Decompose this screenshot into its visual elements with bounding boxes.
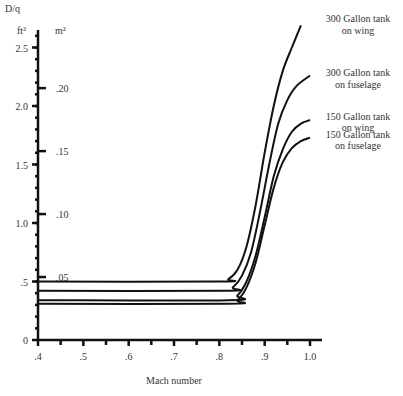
y-tick-label-m2: .20 <box>56 83 69 94</box>
series-label: on fuselage <box>335 79 381 90</box>
x-axis-ticks: .4.5.6.7.8.91.0 <box>34 340 316 362</box>
x-tick-label: 1.0 <box>304 351 317 362</box>
y-tick-label-m2: .15 <box>56 146 69 157</box>
series-label: 300 Gallon tank <box>326 13 390 24</box>
y-tick-label-ft2: 1.5 <box>16 160 29 171</box>
y-unit-m2: m² <box>55 25 66 36</box>
axis-lines <box>38 30 322 340</box>
y-tick-label-ft2: .5 <box>21 277 29 288</box>
series-label: 150 Gallon tank <box>326 111 390 122</box>
series-label: 150 Gallon tank <box>326 129 390 140</box>
x-tick-label: .6 <box>125 351 133 362</box>
series-labels: 300 Gallon tankon wing300 Gallon tankon … <box>326 13 390 151</box>
y-tick-label-m2: .10 <box>56 209 69 220</box>
axes <box>38 30 322 340</box>
series-curve <box>38 76 310 292</box>
series-label: 300 Gallon tank <box>326 67 390 78</box>
x-tick-label: .4 <box>34 351 42 362</box>
x-tick-label: .8 <box>216 351 224 362</box>
y-tick-label-ft2: 2.5 <box>16 43 29 54</box>
x-axis-label: Mach number <box>146 375 202 386</box>
series-curves <box>38 25 310 304</box>
x-tick-label: .7 <box>170 351 178 362</box>
series-label: on wing <box>342 25 375 36</box>
x-tick-label: .9 <box>261 351 269 362</box>
y-axis-label: D/q <box>5 3 20 14</box>
chart: D/q ft² m² 0.51.01.52.02.5.05.10.15.20 .… <box>0 0 403 396</box>
series-label: on fuselage <box>335 140 381 151</box>
y-unit-ft2: ft² <box>17 25 26 36</box>
y-tick-label-ft2: 2.0 <box>16 101 29 112</box>
y-tick-label-ft2: 1.0 <box>16 218 29 229</box>
y-tick-label-ft2: 0 <box>23 335 28 346</box>
y-axis-title: D/q ft² m² <box>5 3 66 36</box>
x-tick-label: .5 <box>80 351 88 362</box>
